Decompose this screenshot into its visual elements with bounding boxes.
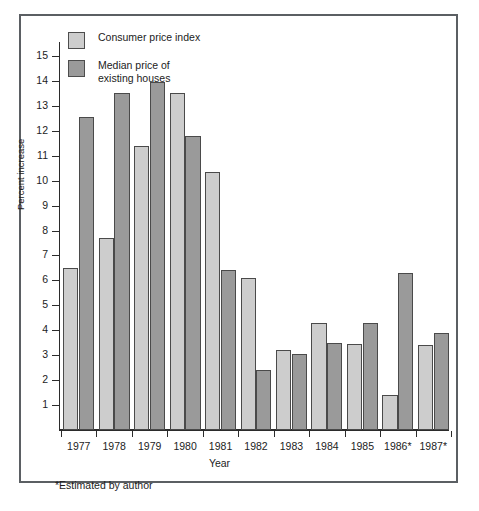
bar-median-house-price [221, 270, 236, 430]
x-axis-tick [345, 431, 346, 437]
bar-consumer-price-index [347, 344, 362, 430]
y-axis-tick: 1 [52, 405, 60, 406]
x-axis-tick [167, 431, 168, 437]
bar-median-house-price [292, 354, 307, 430]
x-axis-tick-label: 1987* [416, 440, 451, 452]
x-axis-tick-label: 1982 [238, 440, 273, 452]
bar-median-house-price [327, 343, 342, 430]
x-axis-tick-label: 1979 [132, 440, 167, 452]
y-axis-tick-label: 3 [42, 348, 48, 360]
x-axis-tick [416, 431, 417, 437]
y-axis-line [59, 42, 60, 431]
x-axis-tick-label: 1983 [274, 440, 309, 452]
y-axis-tick: 8 [52, 231, 60, 232]
x-axis-tick-label: 1986* [380, 440, 415, 452]
y-axis-tick-label: 2 [42, 373, 48, 385]
x-axis-tick [451, 431, 452, 437]
y-axis-tick: 4 [52, 330, 60, 331]
bar-consumer-price-index [418, 345, 433, 430]
x-axis-tick-label: 1985 [345, 440, 380, 452]
y-axis-tick: 3 [52, 355, 60, 356]
y-axis-tick: 12 [52, 131, 60, 132]
y-axis-tick-label: 10 [36, 174, 48, 186]
y-axis-tick-label: 11 [37, 149, 48, 161]
y-axis-tick-label: 13 [36, 99, 48, 111]
bar-median-house-price [256, 370, 271, 430]
bar-consumer-price-index [170, 93, 185, 430]
bar-median-house-price [114, 93, 129, 430]
y-axis-tick-label: 8 [42, 224, 48, 236]
bar-consumer-price-index [241, 278, 256, 430]
x-axis-tick-label: 1977 [61, 440, 96, 452]
bar-median-house-price [185, 136, 200, 430]
bar-median-house-price [150, 82, 165, 430]
x-axis-tick [380, 431, 381, 437]
y-axis-tick-label: 15 [36, 49, 48, 61]
x-axis-tick [203, 431, 204, 437]
y-axis-title: Percent increase [15, 139, 26, 210]
x-axis-tick-label: 1980 [167, 440, 202, 452]
bar-median-house-price [79, 117, 94, 430]
x-axis-tick [274, 431, 275, 437]
x-axis-tick [96, 431, 97, 437]
y-axis-tick: 11 [52, 156, 60, 157]
y-axis-tick: 9 [52, 206, 60, 207]
bar-consumer-price-index [205, 172, 220, 430]
y-axis-tick: 5 [52, 305, 60, 306]
y-axis-tick-label: 12 [36, 124, 48, 136]
bar-consumer-price-index [382, 395, 397, 430]
y-axis-tick-label: 14 [36, 74, 48, 86]
x-axis-tick-label: 1981 [203, 440, 238, 452]
bar-consumer-price-index [99, 238, 114, 430]
bar-median-house-price [398, 273, 413, 430]
y-axis-tick-label: 1 [42, 398, 48, 410]
x-axis-tick [309, 431, 310, 437]
bar-median-house-price [434, 333, 449, 430]
y-axis-tick-label: 6 [42, 273, 48, 285]
bar-consumer-price-index [63, 268, 78, 430]
x-axis-tick-label: 1978 [96, 440, 131, 452]
plot-area: Percent increase 123456789101112131415 1… [59, 42, 449, 431]
y-axis-tick: 13 [52, 106, 60, 107]
y-axis-tick-label: 9 [42, 199, 48, 211]
y-axis-tick: 7 [52, 255, 60, 256]
y-axis-tick-label: 4 [42, 323, 48, 335]
x-axis-tick [132, 431, 133, 437]
y-axis-tick-label: 5 [42, 298, 48, 310]
chart-figure: Consumer price index Median price of exi… [0, 0, 479, 511]
y-axis-tick: 15 [52, 56, 60, 57]
x-axis-tick-label: 1984 [309, 440, 344, 452]
y-axis-tick: 6 [52, 280, 60, 281]
y-axis-tick: 14 [52, 81, 60, 82]
bar-median-house-price [363, 323, 378, 430]
bar-consumer-price-index [276, 350, 291, 430]
x-axis-tick [238, 431, 239, 437]
bar-consumer-price-index [311, 323, 326, 430]
y-axis-tick: 2 [52, 380, 60, 381]
y-axis-tick: 10 [52, 181, 60, 182]
y-axis-tick-label: 7 [42, 248, 48, 260]
x-axis-title: Year [0, 457, 439, 469]
chart-footnote: *Estimated by author [55, 479, 152, 491]
bar-consumer-price-index [134, 146, 149, 430]
x-axis-tick [61, 431, 62, 437]
